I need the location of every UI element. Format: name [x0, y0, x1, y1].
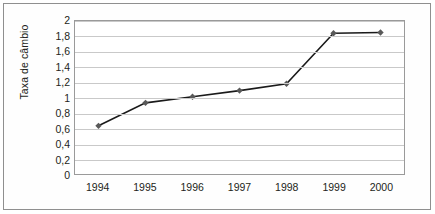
y-axis-tick-label: 0,4 — [55, 139, 70, 150]
x-axis-tick-label: 2000 — [370, 181, 393, 194]
gridline — [75, 36, 404, 37]
gridline — [75, 114, 404, 115]
y-axis-tick-label: 1,8 — [55, 30, 70, 41]
y-axis-tick-label: 2 — [64, 15, 70, 26]
gridline — [75, 67, 404, 68]
chart-figure: Taxa de câmbio 00,20,40,60,811,21,41,61,… — [0, 0, 435, 214]
y-axis-tick-label: 0,6 — [55, 123, 70, 134]
gridline — [75, 98, 404, 99]
gridline — [75, 21, 404, 22]
data-point-marker — [142, 100, 148, 106]
y-axis-tick-label: 1,2 — [55, 77, 70, 88]
x-axis-tick-label: 1994 — [86, 181, 109, 194]
x-axis-tick-label: 1996 — [181, 181, 204, 194]
gridline — [75, 83, 404, 84]
data-point-marker — [377, 29, 383, 35]
gridline — [75, 145, 404, 146]
data-point-marker — [236, 87, 242, 93]
x-axis-tick-labels: 1994199519961997199819992000 — [74, 181, 405, 197]
gridline — [75, 52, 404, 53]
x-axis-tick-label: 1998 — [275, 181, 298, 194]
x-axis-tick-label: 1995 — [133, 181, 156, 194]
y-axis-tick-label: 0,2 — [55, 154, 70, 165]
y-axis-tick-label: 1,4 — [55, 61, 70, 72]
x-axis-tick-label: 1997 — [228, 181, 251, 194]
gridline — [75, 160, 404, 161]
y-axis-tick-label: 0 — [64, 170, 70, 181]
y-axis-tick-label: 1 — [64, 92, 70, 103]
y-axis-tick-label: 1,6 — [55, 46, 70, 57]
series-line — [98, 32, 380, 125]
y-axis-tick-label: 0,8 — [55, 108, 70, 119]
plot-area — [74, 20, 405, 175]
gridline — [75, 129, 404, 130]
y-axis-title: Taxa de câmbio — [18, 2, 30, 122]
x-axis-tick-label: 1999 — [322, 181, 345, 194]
y-axis-tick-labels: 00,20,40,60,811,21,41,61,82 — [44, 20, 70, 175]
